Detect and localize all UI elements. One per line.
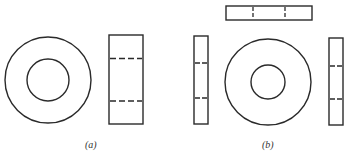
panel-b	[194, 6, 343, 125]
orthographic-drawing	[0, 0, 347, 158]
panel-a	[5, 35, 143, 124]
panel-a-outer-circle	[5, 37, 91, 123]
panel-b-left-view	[194, 36, 208, 124]
panel-a-side-view	[109, 35, 143, 124]
panel-b-label: (b)	[262, 139, 274, 150]
panel-b-inner-circle	[251, 65, 285, 99]
panel-b-top-view	[226, 6, 312, 20]
panel-b-right-view	[329, 38, 343, 125]
panel-b-outer-circle	[225, 39, 311, 125]
panel-a-label: (a)	[85, 139, 97, 150]
panel-a-inner-circle	[27, 59, 69, 101]
